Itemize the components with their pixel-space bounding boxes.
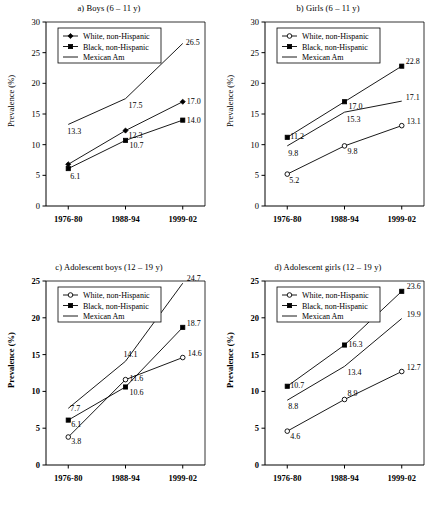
- data-point-label: 19.9: [407, 310, 421, 319]
- data-point-label: 14.6: [188, 349, 202, 358]
- data-point-label: 24.7: [187, 274, 201, 283]
- x-tick-label: 1999-02: [169, 473, 197, 483]
- data-point-marker: [342, 144, 347, 149]
- data-point-label: 23.6: [407, 282, 421, 291]
- figure-obesity-prevalence-trends: a) Boys (6 – 11 y) Prevalence (%) 051015…: [0, 0, 437, 519]
- data-point-label: 9.8: [348, 147, 358, 156]
- data-point-marker: [181, 118, 185, 122]
- data-point-marker: [399, 369, 404, 374]
- y-tick-label: 15: [32, 109, 41, 119]
- data-point-label: 12.7: [407, 363, 421, 372]
- legend-label-mexican: Mexican Am: [302, 53, 344, 62]
- y-tick-label: 10: [32, 140, 41, 150]
- legend-marker-black: [68, 303, 72, 307]
- panel-c-adolescent-boys: c) Adolescent boys (12 – 19 y) Prevalenc…: [0, 259, 218, 518]
- x-tick-label: 1999-02: [169, 214, 197, 224]
- series-line: [287, 319, 401, 401]
- x-tick-label: 1976-80: [273, 214, 301, 224]
- x-tick-label: 1976-80: [54, 473, 82, 483]
- data-point-label: 8.9: [348, 389, 358, 398]
- y-tick-label: 25: [251, 276, 260, 286]
- legend-label-mexican: Mexican Am: [83, 53, 125, 62]
- y-tick-label: 25: [251, 48, 260, 58]
- data-point-label: 6.1: [71, 420, 81, 429]
- legend-label-white: White, non-Hispanic: [302, 32, 369, 41]
- y-tick-label: 30: [251, 17, 260, 27]
- y-tick-label: 25: [32, 48, 41, 58]
- y-tick-label: 25: [32, 276, 41, 286]
- x-tick-label: 1988-94: [330, 214, 359, 224]
- series-line: [68, 358, 182, 437]
- legend-marker-white: [68, 293, 73, 298]
- data-point-marker: [66, 166, 70, 170]
- data-point-label: 16.3: [349, 340, 363, 349]
- data-point-label: 13.3: [67, 127, 81, 136]
- series-line: [68, 327, 182, 420]
- panel-d-adolescent-girls: d) Adolescent girls (12 – 19 y) Prevalen…: [219, 259, 437, 518]
- data-point-marker: [399, 123, 404, 128]
- data-point-label: 18.7: [187, 319, 201, 328]
- y-tick-label: 5: [36, 423, 40, 433]
- data-point-label: 17.1: [406, 93, 420, 102]
- data-point-marker: [342, 397, 347, 402]
- y-tick-label: 15: [32, 350, 41, 360]
- x-tick-label: 1999-02: [388, 214, 416, 224]
- y-tick-label: 20: [32, 78, 41, 88]
- panel-c-plot: 05101520251976-801988-941999-023.811.614…: [0, 259, 218, 518]
- legend-label-black: Black, non-Hispanic: [302, 43, 368, 52]
- y-tick-label: 5: [255, 423, 259, 433]
- data-point-label: 13.4: [348, 368, 362, 377]
- legend-marker-black: [287, 303, 291, 307]
- legend-label-white: White, non-Hispanic: [83, 291, 150, 300]
- y-tick-label: 20: [251, 313, 260, 323]
- data-point-marker: [342, 343, 346, 347]
- data-point-label: 14.1: [124, 350, 138, 359]
- series-line: [68, 120, 182, 168]
- data-point-marker: [66, 418, 70, 422]
- data-point-label: 22.8: [406, 57, 420, 66]
- x-tick-label: 1988-94: [330, 473, 359, 483]
- y-tick-label: 10: [251, 386, 260, 396]
- legend-label-black: Black, non-Hispanic: [83, 43, 149, 52]
- legend-label-black: Black, non-Hispanic: [83, 302, 149, 311]
- x-tick-label: 1988-94: [111, 214, 140, 224]
- data-point-label: 9.8: [288, 149, 298, 158]
- data-point-label: 14.0: [187, 116, 201, 125]
- data-point-marker: [123, 128, 128, 133]
- data-point-label: 17.5: [129, 101, 143, 110]
- legend-marker-black: [68, 44, 72, 48]
- data-point-marker: [285, 384, 289, 388]
- legend-marker-white: [287, 34, 292, 39]
- data-point-marker: [180, 355, 185, 360]
- data-point-label: 15.3: [347, 115, 361, 124]
- data-point-marker: [400, 64, 404, 68]
- y-tick-label: 5: [36, 170, 40, 180]
- y-tick-label: 10: [251, 140, 260, 150]
- data-point-label: 3.8: [71, 437, 81, 446]
- panel-b-plot: 0510152025301976-801988-941999-025.29.81…: [219, 0, 437, 259]
- data-point-label: 5.2: [289, 176, 299, 185]
- series-line: [287, 126, 401, 174]
- data-point-marker: [285, 135, 289, 139]
- data-point-label: 10.6: [130, 388, 144, 397]
- y-tick-label: 0: [36, 460, 40, 470]
- data-point-label: 7.7: [70, 404, 80, 413]
- legend-label-mexican: Mexican Am: [302, 312, 344, 321]
- x-tick-label: 1976-80: [273, 473, 301, 483]
- data-point-label: 4.6: [290, 432, 300, 441]
- legend-label-white: White, non-Hispanic: [83, 32, 150, 41]
- x-tick-label: 1999-02: [388, 473, 416, 483]
- data-point-label: 26.5: [186, 38, 200, 47]
- data-point-marker: [285, 429, 290, 434]
- y-tick-label: 15: [251, 109, 260, 119]
- panel-a-boys: a) Boys (6 – 11 y) Prevalence (%) 051015…: [0, 0, 218, 259]
- data-point-label: 10.7: [290, 381, 304, 390]
- data-point-label: 13.1: [407, 117, 421, 126]
- data-point-marker: [123, 385, 127, 389]
- legend-marker-black: [287, 44, 291, 48]
- data-point-marker: [180, 99, 185, 104]
- legend-label-white: White, non-Hispanic: [302, 291, 369, 300]
- data-point-marker: [123, 377, 128, 382]
- data-point-label: 8.8: [288, 402, 298, 411]
- y-tick-label: 20: [251, 78, 260, 88]
